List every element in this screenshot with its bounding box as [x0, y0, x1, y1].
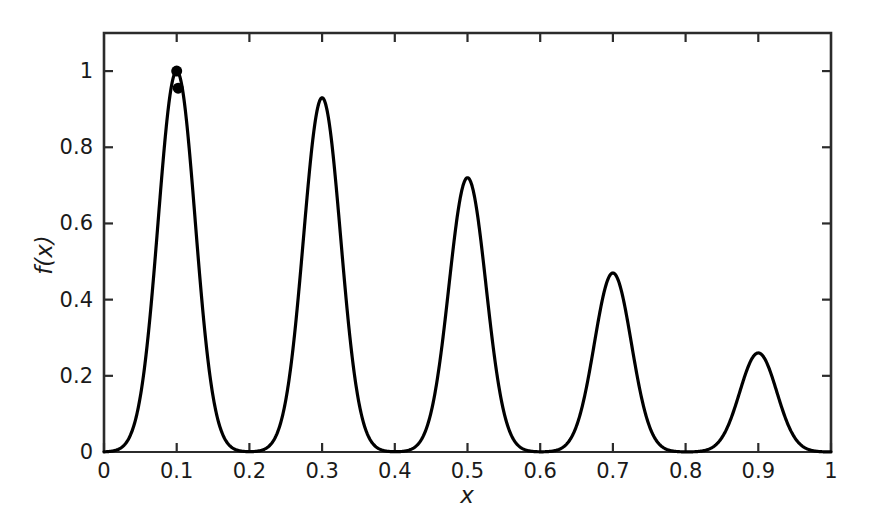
y-tick-label: 0.2 — [60, 364, 93, 388]
x-tick-label: 1 — [824, 459, 837, 483]
figure-container: 00.10.20.30.40.50.60.70.80.91 00.20.40.6… — [0, 0, 876, 520]
x-axis-title: x — [459, 482, 474, 508]
y-tick-label: 0 — [80, 440, 93, 464]
x-tick-label: 0.3 — [305, 459, 338, 483]
x-axis-ticks-top — [177, 33, 759, 42]
y-tick-label: 0.6 — [60, 211, 93, 235]
y-tick-label: 0.8 — [60, 135, 93, 159]
y-axis-tick-labels: 00.20.40.60.81 — [60, 59, 93, 464]
x-tick-label: 0.9 — [742, 459, 775, 483]
y-tick-label: 0.4 — [60, 288, 93, 312]
x-axis-ticks — [104, 443, 831, 452]
x-tick-label: 0.7 — [596, 459, 629, 483]
data-point-marker — [173, 83, 184, 94]
x-tick-label: 0.6 — [523, 459, 556, 483]
x-tick-label: 0.2 — [233, 459, 266, 483]
data-point-marker — [171, 66, 182, 77]
x-axis-tick-labels: 00.10.20.30.40.50.60.70.80.91 — [97, 459, 837, 483]
x-tick-label: 0.1 — [160, 459, 193, 483]
x-tick-label: 0.5 — [451, 459, 484, 483]
y-axis-ticks — [104, 71, 831, 376]
x-tick-label: 0.4 — [378, 459, 411, 483]
x-tick-label: 0.8 — [669, 459, 702, 483]
data-curve — [104, 71, 831, 452]
y-axis-title: f(x) — [31, 235, 57, 275]
line-chart: 00.10.20.30.40.50.60.70.80.91 00.20.40.6… — [0, 0, 876, 520]
x-tick-label: 0 — [97, 459, 110, 483]
y-tick-label: 1 — [80, 59, 93, 83]
